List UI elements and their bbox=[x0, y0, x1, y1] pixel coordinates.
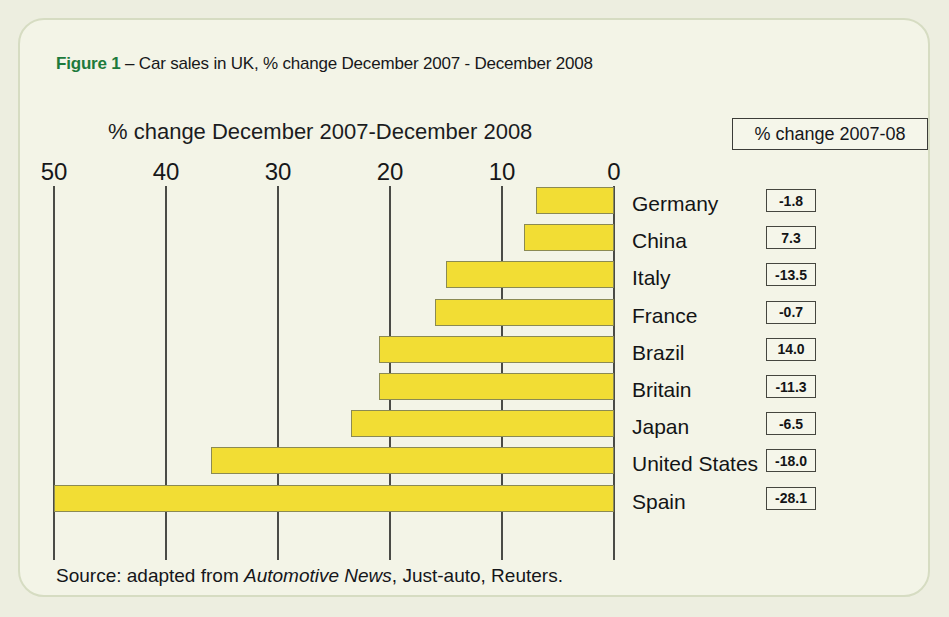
bars-layer: Germany-1.8China7.3Italy-13.5France-0.7B… bbox=[20, 20, 932, 599]
bar-britain bbox=[379, 373, 614, 400]
country-label-united-states: United States bbox=[632, 452, 758, 476]
bar-china bbox=[524, 224, 614, 251]
bar-germany bbox=[536, 187, 614, 214]
value-box-brazil: 14.0 bbox=[766, 338, 816, 361]
country-label-italy: Italy bbox=[632, 266, 671, 290]
value-box-britain: -11.3 bbox=[766, 375, 816, 398]
country-label-spain: Spain bbox=[632, 490, 686, 514]
value-box-germany: -1.8 bbox=[766, 189, 816, 212]
bar-spain bbox=[54, 485, 614, 512]
bar-united-states bbox=[211, 447, 614, 474]
source-suffix: , Just-auto, Reuters. bbox=[392, 565, 563, 586]
figure-screenshot: Figure 1 – Car sales in UK, % change Dec… bbox=[0, 0, 949, 617]
bar-france bbox=[435, 299, 614, 326]
bar-japan bbox=[351, 410, 614, 437]
value-box-france: -0.7 bbox=[766, 301, 816, 324]
country-label-britain: Britain bbox=[632, 378, 692, 402]
value-box-japan: -6.5 bbox=[766, 412, 816, 435]
value-box-china: 7.3 bbox=[766, 226, 816, 249]
source-note: Source: adapted from Automotive News, Ju… bbox=[56, 565, 563, 587]
country-label-france: France bbox=[632, 304, 697, 328]
plot-area: 50403020100 Germany-1.8China7.3Italy-13.… bbox=[20, 20, 932, 599]
value-box-italy: -13.5 bbox=[766, 263, 816, 286]
value-box-spain: -28.1 bbox=[766, 487, 816, 510]
source-prefix: Source: adapted from bbox=[56, 565, 244, 586]
value-box-united-states: -18.0 bbox=[766, 449, 816, 472]
country-label-brazil: Brazil bbox=[632, 341, 685, 365]
bar-italy bbox=[446, 261, 614, 288]
country-label-japan: Japan bbox=[632, 415, 689, 439]
figure-panel: Figure 1 – Car sales in UK, % change Dec… bbox=[18, 18, 930, 597]
source-publication: Automotive News bbox=[244, 565, 392, 586]
bar-brazil bbox=[379, 336, 614, 363]
country-label-germany: Germany bbox=[632, 192, 718, 216]
country-label-china: China bbox=[632, 229, 687, 253]
